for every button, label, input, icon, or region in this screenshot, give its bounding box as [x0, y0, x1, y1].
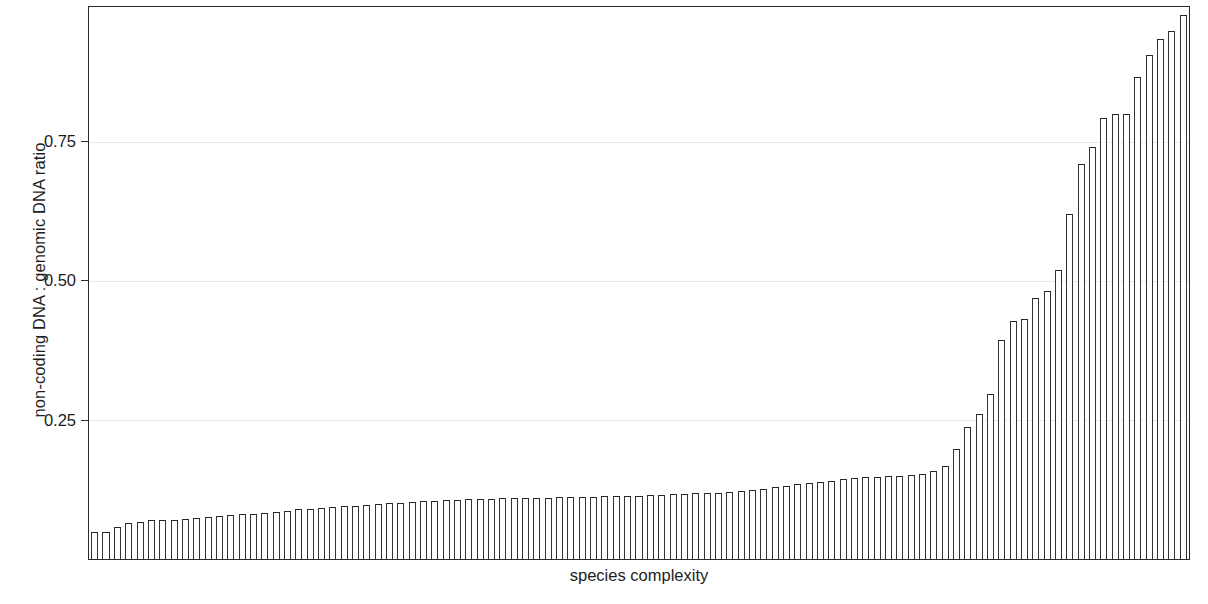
bar	[363, 505, 370, 559]
bar	[896, 476, 903, 559]
bar-series	[89, 7, 1189, 559]
bar	[1146, 55, 1153, 559]
bar	[726, 492, 733, 559]
bar	[987, 394, 994, 559]
bar	[499, 498, 506, 559]
bar	[250, 514, 257, 559]
bar	[352, 506, 359, 559]
bar	[205, 517, 212, 559]
bar	[522, 498, 529, 559]
bar	[420, 501, 427, 559]
bar	[681, 494, 688, 559]
bar	[976, 414, 983, 559]
bar	[1044, 291, 1051, 559]
bar	[885, 476, 892, 559]
bar	[590, 497, 597, 559]
bar	[125, 523, 132, 559]
bar	[454, 500, 461, 559]
bar	[942, 466, 949, 559]
bar	[137, 522, 144, 559]
bar	[862, 477, 869, 559]
bar	[772, 487, 779, 559]
x-axis-title: species complexity	[88, 566, 1190, 585]
bar	[511, 498, 518, 559]
bar	[817, 482, 824, 559]
bar	[749, 490, 756, 559]
bar	[1168, 31, 1175, 559]
bar	[828, 481, 835, 559]
bar	[477, 499, 484, 559]
bar	[284, 511, 291, 559]
bar	[193, 518, 200, 559]
bar	[635, 496, 642, 559]
bar	[533, 498, 540, 559]
bar	[567, 497, 574, 559]
bar	[908, 475, 915, 559]
bar	[579, 497, 586, 559]
bar	[318, 508, 325, 559]
bar	[1066, 214, 1073, 559]
bar	[375, 504, 382, 559]
bar	[1180, 15, 1187, 559]
bar	[102, 532, 109, 559]
bar	[545, 498, 552, 559]
bar	[1157, 39, 1164, 559]
bar	[704, 493, 711, 559]
bar	[114, 527, 121, 559]
bar	[386, 503, 393, 559]
bar	[601, 496, 608, 559]
bar	[295, 509, 302, 559]
y-tick-label-0.50: 0.50	[24, 271, 76, 290]
bar	[307, 509, 314, 559]
bar	[738, 491, 745, 559]
bar	[239, 514, 246, 559]
bar	[658, 495, 665, 559]
y-tick-label-0.25: 0.25	[24, 411, 76, 430]
bar	[159, 520, 166, 559]
bar	[624, 496, 631, 559]
bar	[1123, 114, 1130, 559]
bar	[647, 495, 654, 559]
bar	[148, 520, 155, 559]
y-tick-label-0.75: 0.75	[24, 132, 76, 151]
bar	[91, 532, 98, 559]
bar	[930, 471, 937, 559]
bar	[1055, 270, 1062, 559]
bar	[794, 484, 801, 559]
bar	[874, 477, 881, 559]
bar	[670, 494, 677, 559]
bar	[1021, 319, 1028, 559]
bar	[1112, 114, 1119, 559]
bar	[1032, 298, 1039, 559]
bar	[1089, 147, 1096, 559]
bar	[840, 479, 847, 559]
bar	[273, 512, 280, 559]
bar	[261, 513, 268, 559]
bar	[715, 493, 722, 559]
bar	[171, 520, 178, 559]
plot-area	[88, 6, 1190, 560]
bar	[1134, 77, 1141, 559]
bar	[964, 427, 971, 559]
bar	[806, 483, 813, 559]
bar	[919, 474, 926, 559]
bar	[216, 516, 223, 559]
bar	[227, 515, 234, 559]
bar	[488, 499, 495, 559]
bar	[431, 501, 438, 559]
bar	[760, 489, 767, 559]
bar	[998, 340, 1005, 559]
bar	[1078, 164, 1085, 559]
bar	[341, 506, 348, 559]
y-axis-tick-labels: 0.25 0.50 0.75	[22, 0, 76, 604]
chart-figure: non-coding DNA : genomic DNA ratio 0.25 …	[0, 0, 1208, 604]
bar	[465, 499, 472, 559]
bar	[556, 497, 563, 559]
bar	[329, 507, 336, 559]
bar	[1010, 321, 1017, 559]
bar	[409, 502, 416, 559]
bar	[182, 519, 189, 559]
bar	[851, 478, 858, 559]
bar	[953, 449, 960, 559]
bar	[692, 493, 699, 559]
